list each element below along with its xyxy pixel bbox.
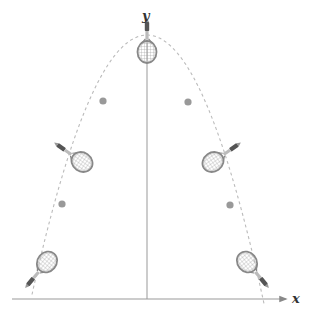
racket-mid-left-icon (49, 135, 97, 176)
y-axis-label: y (142, 8, 150, 23)
dot-upper-left (99, 97, 106, 104)
projectile-diagram (0, 0, 316, 313)
x-axis-label: x (292, 291, 300, 306)
racket-low-left-icon (18, 247, 61, 294)
parabola-path (32, 35, 264, 304)
dot-upper-right (184, 98, 191, 105)
dot-lower-left (58, 200, 65, 207)
racket-low-right-icon (233, 247, 276, 294)
racket-mid-right-icon (199, 135, 247, 176)
dot-lower-right (226, 201, 233, 208)
trajectory-curve (32, 35, 264, 304)
racket-top-icon (138, 18, 157, 63)
